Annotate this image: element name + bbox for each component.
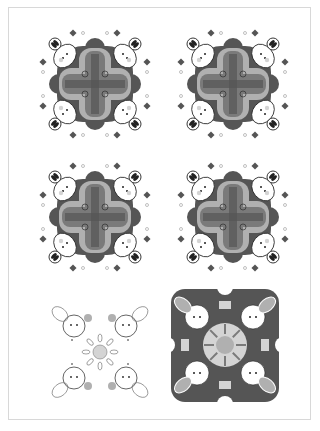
diamond-icon xyxy=(207,264,214,271)
diamond-icon xyxy=(143,58,150,65)
diamond-icon xyxy=(281,102,288,109)
diamond-icon xyxy=(177,235,184,242)
diamond-icon xyxy=(251,162,258,169)
diamond-icon xyxy=(113,29,120,36)
diamond-icon xyxy=(177,58,184,65)
diamond-icon xyxy=(39,191,46,198)
diamond-icon xyxy=(143,102,150,109)
diamond-icon xyxy=(69,29,76,36)
diamond-icon xyxy=(281,235,288,242)
diamond-icon xyxy=(207,131,214,138)
face-outline xyxy=(63,315,85,337)
diamond-icon xyxy=(39,102,46,109)
line-art-svg xyxy=(45,297,155,407)
diamond-icon xyxy=(69,264,76,271)
diamond-icon xyxy=(113,162,120,169)
mandala-tile-1 xyxy=(35,27,155,142)
mandala-svg xyxy=(35,160,155,275)
face-outline xyxy=(63,367,85,389)
mandala-svg xyxy=(35,27,155,142)
diamond-icon xyxy=(39,235,46,242)
diamond-icon xyxy=(113,264,120,271)
mandala-svg xyxy=(173,27,293,142)
diamond-icon xyxy=(39,58,46,65)
diamond-icon xyxy=(251,29,258,36)
mandala-tile-3 xyxy=(35,160,155,275)
filled-tile-6 xyxy=(165,283,285,408)
mandala-tile-2 xyxy=(173,27,293,142)
diamond-icon xyxy=(281,58,288,65)
mandala-tile-4 xyxy=(173,160,293,275)
diamond-icon xyxy=(143,235,150,242)
diamond-icon xyxy=(113,131,120,138)
diamond-icon xyxy=(207,162,214,169)
center-flower xyxy=(93,345,107,359)
diamond-icon xyxy=(69,162,76,169)
diamond-icon xyxy=(251,131,258,138)
diamond-icon xyxy=(251,264,258,271)
diamond-icon xyxy=(281,191,288,198)
line-art-tile-5 xyxy=(45,297,155,407)
diamond-icon xyxy=(177,102,184,109)
diamond-icon xyxy=(143,191,150,198)
face-outline xyxy=(115,367,137,389)
mandala-svg xyxy=(173,160,293,275)
face-outline xyxy=(115,315,137,337)
diamond-icon xyxy=(207,29,214,36)
diamond-icon xyxy=(69,131,76,138)
filled-svg xyxy=(165,283,285,408)
diamond-icon xyxy=(177,191,184,198)
